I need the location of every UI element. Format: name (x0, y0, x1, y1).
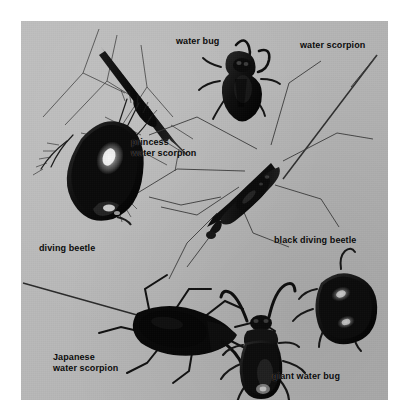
label-diving-beetle: diving beetle (39, 243, 95, 254)
specimen-water-bug (199, 40, 280, 121)
specimen-black-diving-beetle (293, 249, 377, 351)
label-princess-water-scorpion: princess water scorpion (131, 137, 196, 158)
label-giant-water-bug: giant water bug (272, 371, 340, 382)
photo-field: water bug water scorpion princess water … (21, 21, 388, 400)
label-water-bug: water bug (176, 36, 219, 47)
figure-plate: water bug water scorpion princess water … (0, 0, 403, 415)
specimen-artwork (21, 21, 388, 400)
label-water-scorpion: water scorpion (300, 40, 365, 51)
label-black-diving-beetle: black diving beetle (274, 235, 356, 246)
label-japanese-water-scorpion: Japanese water scorpion (53, 352, 118, 373)
